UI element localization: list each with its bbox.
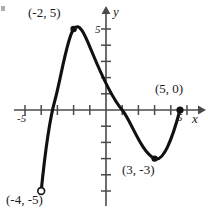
- label-point-maximum: (-2, 5): [28, 6, 61, 19]
- corner-artifact-mark: [1, 6, 5, 11]
- graph-figure: (-2, 5) (5, 0) (3, -3) (-4, -5) y x 5 -5…: [0, 0, 208, 214]
- point-marker-maximum: [70, 26, 76, 32]
- x-axis-tick-label-neg5: -5: [17, 113, 26, 124]
- function-curve: [41, 27, 180, 191]
- label-point-closed-endpoint: (5, 0): [155, 82, 183, 95]
- y-axis-tick-label-5: 5: [95, 24, 101, 35]
- y-axis-label: y: [113, 5, 119, 18]
- y-axis: [101, 6, 111, 206]
- label-point-minimum: (3, -3): [122, 163, 155, 176]
- coordinate-plane-svg: [0, 0, 208, 214]
- x-axis-label: x: [192, 112, 198, 125]
- point-marker-minimum: [151, 155, 157, 161]
- x-axis-tick-label-5: 5: [177, 112, 183, 123]
- label-point-open-endpoint: (-4, -5): [6, 193, 43, 206]
